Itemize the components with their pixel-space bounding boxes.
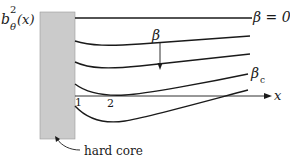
hard-core-label: hard core (84, 144, 143, 158)
label-beta-arrow: β (151, 27, 160, 43)
hard-core-region (40, 12, 75, 139)
tick-label-2: 2 (107, 97, 114, 110)
x-axis-arrowhead-icon (264, 93, 272, 99)
potential-diagram: b 2 θ (x) β = 0 β β c x 1 2 hard core (0, 0, 290, 165)
curve-beta-2 (75, 36, 250, 45)
y-axis-label: b (1, 11, 10, 27)
curve-beta-large (75, 90, 248, 122)
y-axis-label-subscript: θ (10, 21, 16, 32)
curve-beta-3 (75, 54, 250, 68)
beta-arrowhead-icon (158, 63, 163, 70)
tick-label-1: 1 (75, 96, 82, 109)
label-beta-zero: β = 0 (252, 9, 290, 25)
curve-beta-critical (75, 74, 248, 95)
label-beta-critical: β (250, 65, 259, 81)
x-axis-label: x (274, 88, 282, 103)
hard-core-pointer (57, 139, 80, 150)
y-axis-label-superscript: 2 (10, 4, 16, 15)
label-beta-critical-subscript: c (260, 75, 265, 85)
y-axis-label-argument: (x) (17, 12, 34, 27)
